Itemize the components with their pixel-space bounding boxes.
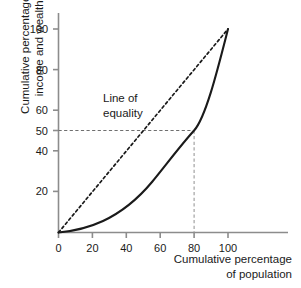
x-tick-label-40: 40 xyxy=(120,243,132,254)
line-of-equality-label-line-2: equality xyxy=(103,106,143,121)
x-tick-label-20: 20 xyxy=(86,243,98,254)
line-of-equality-label: Line of equality xyxy=(103,91,143,121)
lorenz-curve-figure: 100 80 60 50 40 20 0 20 40 60 80 100 Cum… xyxy=(0,0,301,288)
y-axis-title-line-1: Cumulative percentage of xyxy=(18,0,32,128)
y-axis-title-line-2: income and wealth xyxy=(32,0,46,128)
x-axis-title-line-2: of population xyxy=(140,267,292,282)
y-axis-title: Cumulative percentage of income and weal… xyxy=(18,0,47,128)
x-axis-title-line-1: Cumulative percentage xyxy=(140,252,292,267)
x-tick-label-0: 0 xyxy=(55,243,61,254)
line-of-equality-label-line-1: Line of xyxy=(103,91,143,106)
x-axis-title: Cumulative percentage of population xyxy=(140,252,292,282)
y-tick-label-20: 20 xyxy=(22,186,48,197)
y-tick-label-40: 40 xyxy=(22,145,48,156)
